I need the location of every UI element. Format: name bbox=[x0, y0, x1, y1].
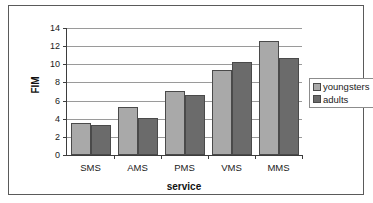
bar-vms-adults bbox=[232, 62, 252, 155]
bar-mms-adults bbox=[279, 58, 299, 155]
bar-vms-youngsters bbox=[212, 70, 232, 155]
legend-swatch-youngsters bbox=[313, 83, 321, 91]
bar-pms-adults bbox=[185, 95, 205, 155]
y-axis-tick-label: 2 bbox=[55, 132, 60, 141]
y-axis-tick-label: 14 bbox=[50, 24, 60, 33]
y-axis-title: FIM bbox=[31, 76, 41, 93]
y-axis-tick bbox=[63, 101, 67, 102]
y-axis-tick-label: 10 bbox=[50, 60, 60, 69]
bar-ams-youngsters bbox=[118, 107, 138, 155]
y-axis-tick-label: 0 bbox=[55, 151, 60, 160]
legend-swatch-adults bbox=[313, 95, 321, 103]
legend-item-adults: adults bbox=[313, 95, 369, 105]
y-axis-tick bbox=[63, 64, 67, 65]
bar-sms-youngsters bbox=[71, 123, 91, 155]
x-axis-tick bbox=[114, 155, 115, 159]
x-axis-tick-label-ams: AMS bbox=[127, 163, 148, 173]
y-axis-tick bbox=[63, 82, 67, 83]
x-axis-tick bbox=[302, 155, 303, 159]
bar-pms-youngsters bbox=[165, 91, 185, 155]
chart-legend: youngstersadults bbox=[309, 78, 373, 108]
y-axis-tick-label: 4 bbox=[55, 114, 60, 123]
plot-area: 02468101214SMSAMSPMSVMSMMS bbox=[66, 28, 302, 156]
x-axis-title: service bbox=[66, 182, 302, 192]
figure-frame: FIM 02468101214SMSAMSPMSVMSMMS service y… bbox=[8, 5, 364, 195]
y-axis-tick bbox=[63, 119, 67, 120]
x-axis-tick-label-sms: SMS bbox=[80, 163, 101, 173]
legend-item-youngsters: youngsters bbox=[313, 82, 369, 92]
y-axis-tick-label: 8 bbox=[55, 78, 60, 87]
x-axis-tick bbox=[255, 155, 256, 159]
x-axis-tick-label-mms: MMS bbox=[267, 163, 289, 173]
x-axis-tick-label-pms: PMS bbox=[174, 163, 195, 173]
chart-screenshot: FIM 02468101214SMSAMSPMSVMSMMS service y… bbox=[0, 0, 373, 203]
y-axis-tick bbox=[63, 46, 67, 47]
bar-mms-youngsters bbox=[259, 41, 279, 155]
bar-sms-adults bbox=[91, 125, 111, 155]
gridline bbox=[67, 28, 302, 29]
y-axis-tick-label: 12 bbox=[50, 42, 60, 51]
bar-ams-adults bbox=[138, 118, 158, 155]
x-axis-tick bbox=[161, 155, 162, 159]
y-axis-tick bbox=[63, 137, 67, 138]
x-axis-tick bbox=[208, 155, 209, 159]
y-axis-tick bbox=[63, 155, 67, 156]
legend-label-adults: adults bbox=[323, 95, 348, 105]
y-axis-tick-label: 6 bbox=[55, 96, 60, 105]
x-axis-tick-label-vms: VMS bbox=[221, 163, 242, 173]
legend-label-youngsters: youngsters bbox=[323, 82, 369, 92]
y-axis-tick bbox=[63, 28, 67, 29]
